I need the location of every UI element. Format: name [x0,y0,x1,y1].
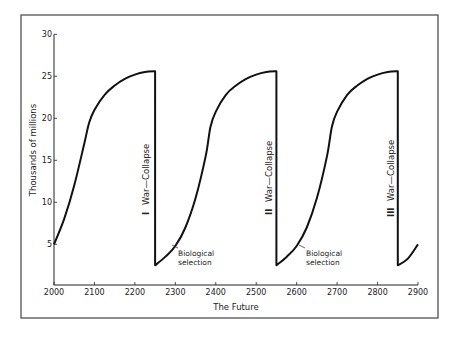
collapse-label-2: War—Collapse [264,141,274,202]
collapse-label-3: War—Collapse [386,140,396,201]
collapse-number-2: II [264,209,274,215]
x-tick-label: 2100 [84,288,104,297]
collapse-label-1: War—Collapse [141,144,151,205]
bio-label-2a: Biological [306,249,342,258]
collapse-number-3: III [386,208,396,218]
x-tick-label: 2800 [367,288,387,297]
x-tick-label: 2200 [125,288,145,297]
x-tick-label: 2500 [246,288,266,297]
bio-label-1a: Biological [178,249,214,258]
biological-selection-annotation-2: Biological selection [299,245,342,267]
bio-label-2b: selection [306,258,340,267]
x-tick-label: 2300 [165,288,185,297]
axes: 5101520253020002100220023002400250026002… [42,30,428,297]
population-curve [54,71,418,265]
bio-label-1b: selection [178,258,212,267]
x-tick-label: 2900 [408,288,428,297]
collapse-number-1: I [141,212,151,215]
y-tick-label: 30 [42,30,52,39]
x-tick-label: 2600 [286,288,306,297]
collapse-annotation-2: II War—Collapse [264,141,274,215]
collapse-annotation-3: III War—Collapse [386,140,396,217]
collapse-annotation-1: I War—Collapse [141,144,151,215]
y-tick-label: 10 [42,198,52,207]
x-axis-label: The Future [212,302,259,312]
y-tick-label: 25 [42,72,52,81]
x-tick-label: 2400 [206,288,226,297]
y-tick-label: 15 [42,156,52,165]
y-tick-label: 20 [42,114,52,123]
y-axis-label: Thousands of millions [28,103,38,197]
x-tick-label: 2000 [44,288,64,297]
population-chart: 5101520253020002100220023002400250026002… [0,0,456,341]
x-tick-label: 2700 [327,288,347,297]
biological-selection-annotation-1: Biological selection [172,245,214,267]
chart-frame [21,15,438,318]
y-tick-label: 5 [47,240,52,249]
